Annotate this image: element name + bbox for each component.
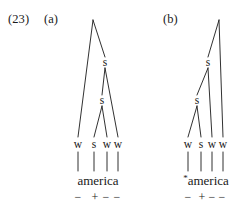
branch-a-root-left (78, 20, 93, 137)
branch-a-upper-left (102, 68, 105, 95)
terminal-label-b-4: w (216, 139, 230, 151)
branch-b-lower-right (197, 106, 201, 137)
branch-b-root-right (219, 20, 223, 137)
feature-b-1: − (181, 191, 195, 203)
example-number: (23) (8, 12, 29, 27)
feature-a-4: − (110, 191, 124, 203)
branch-b-upper-left (197, 68, 208, 95)
node-label-a-lower-s: s (95, 95, 109, 107)
branch-a-lower-left (94, 106, 102, 137)
terminal-label-a-2: s (87, 139, 101, 151)
feature-b-4: − (215, 191, 229, 203)
terminal-label-b-1: w (181, 139, 195, 151)
tree-label-a: (a) (44, 12, 58, 27)
feature-a-1: − (71, 191, 85, 203)
tree-label-b: (b) (163, 12, 178, 27)
branch-b-upper-right (208, 68, 212, 137)
word-text-b: america (188, 173, 229, 188)
node-label-b-upper-s: s (201, 57, 215, 69)
branch-a-root-right (93, 20, 105, 57)
node-label-b-lower-s: s (190, 95, 204, 107)
branch-b-root-left (208, 20, 219, 57)
node-label-a-upper-s: s (98, 57, 112, 69)
word-b: *america (156, 172, 249, 187)
terminal-label-a-1: w (71, 139, 85, 151)
metrical-tree-figure: (23) (a) (b) (0, 0, 249, 210)
branch-b-lower-left (188, 106, 197, 137)
word-text-a: america (77, 173, 118, 188)
terminal-label-a-4: w (111, 139, 125, 151)
word-a: america (48, 172, 148, 187)
branch-a-lower-right (102, 106, 107, 137)
